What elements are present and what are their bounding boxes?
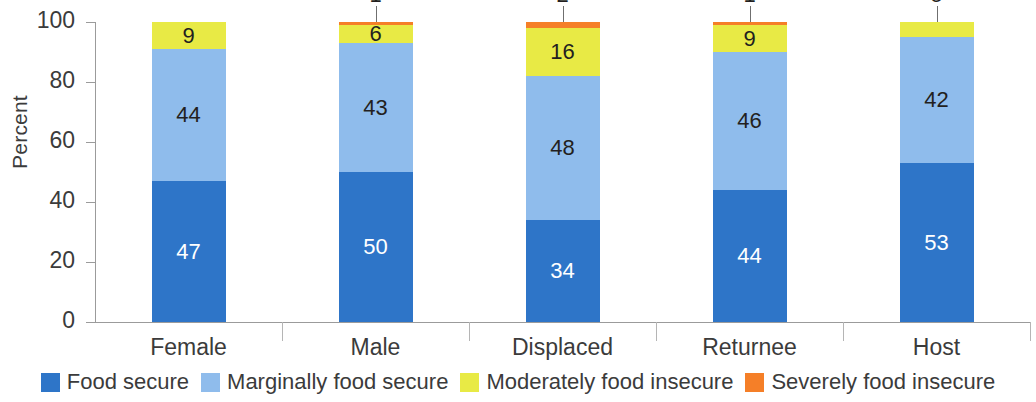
bar-segment-label: 50 (363, 236, 387, 258)
bar-segment[interactable]: 6 (339, 25, 413, 43)
bar-segment-label: 44 (737, 245, 761, 267)
bar-female[interactable]: 47449 (152, 22, 226, 322)
y-axis-line (95, 22, 96, 322)
label-leader-line (937, 6, 938, 22)
bar-displaced[interactable]: 3448162 (526, 22, 600, 322)
label-leader-line (750, 6, 751, 22)
bar-segment-label: 44 (176, 104, 200, 126)
bar-segment[interactable]: 1 (339, 22, 413, 25)
bar-segment-label: 9 (743, 28, 755, 50)
bar-segment[interactable]: 9 (713, 25, 787, 52)
legend-swatch-icon (745, 373, 764, 392)
x-axis-label-female: Female (99, 334, 279, 361)
bar-segment[interactable]: 44 (713, 190, 787, 322)
bar-segment[interactable]: 16 (526, 28, 600, 76)
y-axis-tick: 80 (86, 82, 95, 83)
bar-segment[interactable]: 44 (152, 49, 226, 181)
x-axis-line (95, 322, 1030, 323)
legend-swatch-icon (41, 373, 60, 392)
bar-segment[interactable]: 9 (152, 22, 226, 49)
legend-label: Moderately food insecure (486, 369, 733, 395)
bar-segment-label: 46 (737, 110, 761, 132)
bar-segment-label: 9 (182, 25, 194, 47)
y-axis-tick: 100 (86, 22, 95, 23)
y-axis-tick-label: 0 (62, 307, 75, 334)
plot-area: 020406080100 474495043613448162444691534… (95, 22, 1030, 322)
bar-segment[interactable]: 5 (900, 22, 974, 37)
y-axis-tick-label: 40 (49, 187, 75, 214)
bar-segment-label: 34 (550, 260, 574, 282)
x-axis-separator (843, 322, 844, 341)
y-axis-tick-label: 80 (49, 67, 75, 94)
y-axis-title: Percent (8, 72, 32, 192)
y-axis-tick: 60 (86, 142, 95, 143)
bar-male[interactable]: 504361 (339, 22, 413, 322)
bar-segment[interactable]: 46 (713, 52, 787, 190)
legend-label: Food secure (67, 369, 189, 395)
legend-label: Marginally food secure (227, 369, 448, 395)
x-axis-separator (282, 322, 283, 341)
label-leader-line (376, 6, 377, 22)
bar-segment-label: 16 (550, 41, 574, 63)
x-axis-label-host: Host (847, 334, 1027, 361)
x-axis-separator (1030, 322, 1031, 341)
y-axis-tick: 20 (86, 262, 95, 263)
x-axis-separator (469, 322, 470, 341)
bar-segment[interactable]: 1 (713, 22, 787, 25)
chart-legend: Food secureMarginally food secureModerat… (0, 369, 1036, 395)
bar-segment-label: 6 (369, 23, 381, 45)
bar-segment[interactable]: 50 (339, 172, 413, 322)
legend-swatch-icon (460, 373, 479, 392)
x-axis-label-male: Male (286, 334, 466, 361)
bar-segment[interactable]: 47 (152, 181, 226, 322)
legend-swatch-icon (201, 373, 220, 392)
bar-host[interactable]: 53425 (900, 22, 974, 322)
bar-segment[interactable]: 42 (900, 37, 974, 163)
bar-returnee[interactable]: 444691 (713, 22, 787, 322)
x-axis-label-displaced: Displaced (473, 334, 653, 361)
bar-segment[interactable]: 53 (900, 163, 974, 322)
bar-segment-label: 48 (550, 137, 574, 159)
bar-segment-label: 43 (363, 97, 387, 119)
stacked-bar-chart: Percent 020406080100 4744950436134481624… (0, 0, 1036, 402)
bar-segment[interactable]: 34 (526, 220, 600, 322)
bar-segment-label: 47 (176, 241, 200, 263)
bar-segment[interactable]: 43 (339, 43, 413, 172)
y-axis-tick-label: 100 (37, 7, 75, 34)
bar-segment-label: 53 (924, 232, 948, 254)
bar-segment-label: 42 (924, 89, 948, 111)
x-axis-label-returnee: Returnee (660, 334, 840, 361)
y-axis-tick-label: 20 (49, 247, 75, 274)
legend-item[interactable]: Marginally food secure (201, 369, 448, 395)
legend-item[interactable]: Severely food insecure (745, 369, 995, 395)
y-axis-tick: 0 (86, 322, 95, 323)
legend-label: Severely food insecure (771, 369, 995, 395)
label-leader-line (563, 6, 564, 22)
legend-item[interactable]: Food secure (41, 369, 189, 395)
y-axis-tick: 40 (86, 202, 95, 203)
legend-item[interactable]: Moderately food insecure (460, 369, 733, 395)
bar-segment[interactable]: 48 (526, 76, 600, 220)
y-axis-tick-label: 60 (49, 127, 75, 154)
bar-segment[interactable]: 2 (526, 22, 600, 28)
x-axis-separator (656, 322, 657, 341)
